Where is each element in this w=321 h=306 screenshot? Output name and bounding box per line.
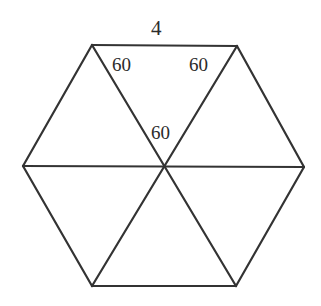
geometry-figure: 4 60 60 60	[0, 0, 321, 306]
hexagon-diagram	[0, 0, 321, 306]
hexagon-edge-lower-left	[23, 166, 92, 286]
hexagon-edge-top	[92, 45, 237, 46]
angle-label-top-right: 60	[189, 55, 208, 74]
hexagon-diagonals	[23, 45, 304, 286]
hexagon-edge-lower-right	[236, 167, 304, 286]
side-length-label-top: 4	[151, 18, 162, 39]
hexagon-edge-upper-right	[237, 46, 304, 167]
hexagon-edge-upper-left	[23, 45, 92, 166]
angle-label-top-left: 60	[112, 55, 131, 74]
angle-label-center: 60	[151, 123, 170, 142]
diagonal-left-right	[23, 166, 304, 167]
